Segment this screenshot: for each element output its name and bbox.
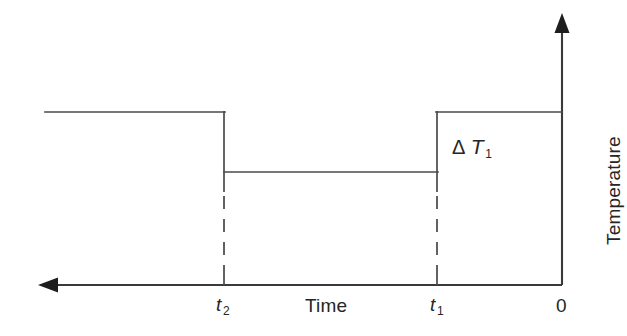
x-axis-title: Time <box>305 296 347 315</box>
delta-t1-annotation: ΔT1 <box>452 136 491 157</box>
time-axis-group <box>38 278 562 293</box>
temperature-axis-arrowhead-icon <box>555 13 570 33</box>
delta-subscript: 1 <box>485 147 492 161</box>
guide-lines-group <box>224 196 437 285</box>
tick-t2-subscript: 2 <box>223 304 230 318</box>
axis-origin-label: 0 <box>556 296 567 315</box>
temperature-time-figure: t2 t1 Time 0 ΔT1 Temperature <box>0 0 627 336</box>
temperature-axis-group <box>555 13 570 285</box>
delta-base: T <box>471 135 484 158</box>
axis-tick-label-t1: t1 <box>430 295 443 314</box>
tick-t1-subscript: 1 <box>437 304 444 318</box>
delta-symbol: Δ <box>452 136 466 158</box>
y-axis-title: Temperature <box>604 136 623 245</box>
tick-t2-base: t <box>216 294 222 315</box>
time-axis-arrowhead-icon <box>38 278 58 293</box>
figure-canvas <box>0 0 627 336</box>
axis-tick-label-t2: t2 <box>216 295 229 314</box>
tick-t1-base: t <box>430 294 436 315</box>
